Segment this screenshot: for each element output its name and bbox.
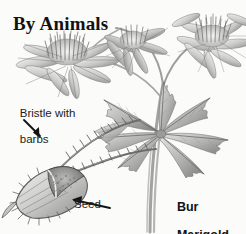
label-bristle-line2: barbs <box>20 133 49 145</box>
figure-panel: By Animals Bristle with barbs Seed Bur M… <box>0 0 246 234</box>
label-bristle-line1: Bristle with <box>20 107 76 119</box>
caption-line2: Marigold <box>177 228 229 234</box>
label-seed: Seed <box>74 198 101 211</box>
figure-title: By Animals <box>13 13 108 34</box>
caption-line1: Bur <box>177 200 199 214</box>
figure-caption: Bur Marigold <box>163 186 229 234</box>
label-bristle-with-barbs: Bristle with barbs <box>7 94 75 158</box>
